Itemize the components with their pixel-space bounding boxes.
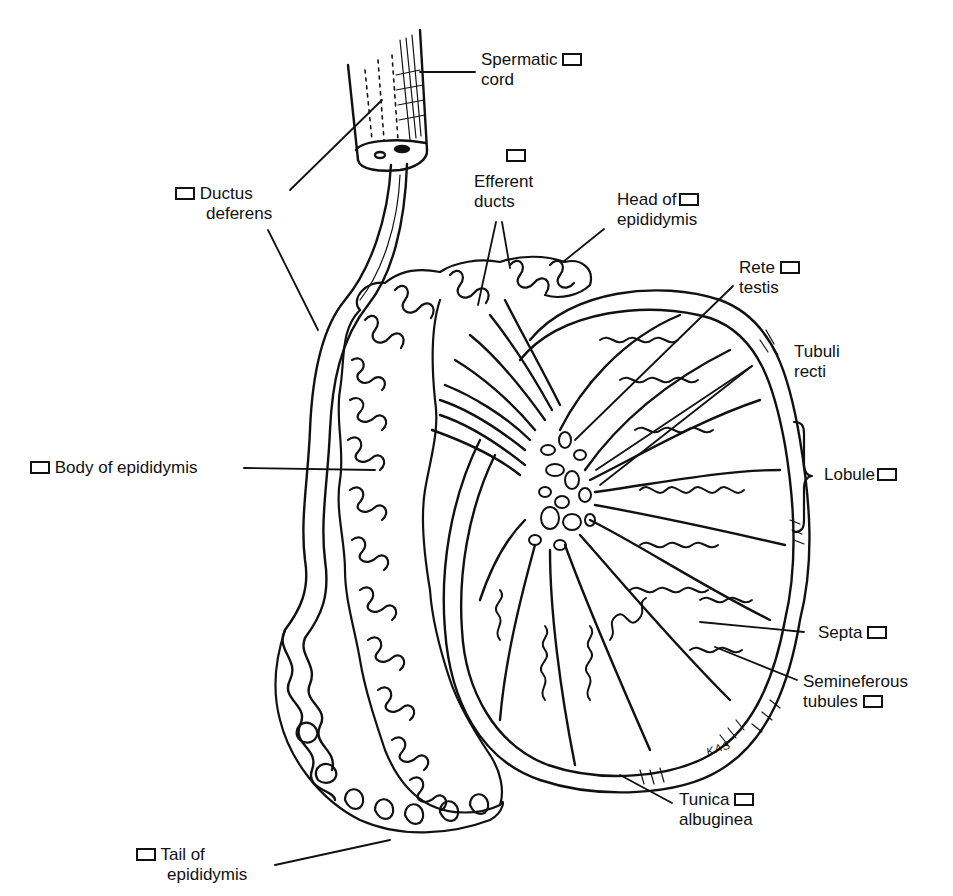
label-text: Spermatic bbox=[481, 50, 558, 69]
label-text: Septa bbox=[818, 623, 862, 642]
label-seminiferous-tubules: Semineferous tubules bbox=[803, 672, 908, 712]
leader-tail-of-epididymis bbox=[275, 840, 390, 865]
label-text: deferens bbox=[175, 204, 272, 224]
label-efferent-ducts: Efferent ducts bbox=[474, 146, 533, 212]
answer-checkbox[interactable] bbox=[30, 461, 50, 474]
answer-checkbox[interactable] bbox=[734, 793, 754, 806]
answer-checkbox[interactable] bbox=[863, 695, 883, 708]
label-spermatic-cord: Spermatic cord bbox=[481, 50, 582, 90]
label-text: Head of bbox=[617, 190, 677, 209]
answer-checkbox[interactable] bbox=[780, 261, 800, 274]
answer-checkbox[interactable] bbox=[175, 187, 195, 200]
label-text: cord bbox=[481, 70, 582, 90]
label-text: Ductus bbox=[200, 184, 253, 203]
label-tunica-albuginea: Tunica albuginea bbox=[679, 790, 754, 830]
label-body-of-epididymis: Body of epididymis bbox=[30, 458, 197, 478]
answer-checkbox[interactable] bbox=[562, 53, 582, 66]
label-text: recti bbox=[794, 362, 840, 382]
label-text: Efferent bbox=[474, 172, 533, 192]
efferent-ducts-drawing bbox=[432, 300, 595, 550]
label-text: Tunica bbox=[679, 790, 729, 809]
leader-ductus-deferens-lower bbox=[268, 230, 318, 330]
answer-checkbox[interactable] bbox=[136, 848, 156, 861]
leader-body-of-epididymis bbox=[244, 468, 375, 470]
spermatic-cord-drawing bbox=[348, 30, 427, 171]
label-text: Semineferous bbox=[803, 672, 908, 692]
answer-checkbox[interactable] bbox=[877, 468, 897, 481]
label-tubuli-recti: Tubuli recti bbox=[794, 342, 840, 382]
label-text: albuginea bbox=[679, 810, 754, 830]
leader-seminiferous-tubules bbox=[715, 647, 797, 680]
label-text: epididymis bbox=[136, 865, 247, 885]
ductus-deferens-drawing bbox=[283, 164, 407, 800]
anatomy-illustration bbox=[0, 0, 953, 896]
label-text: epididymis bbox=[617, 210, 699, 230]
label-text: Rete bbox=[739, 258, 775, 277]
label-text: Lobule bbox=[824, 465, 875, 484]
label-lobule: Lobule bbox=[824, 465, 897, 485]
label-text: tubules bbox=[803, 692, 858, 711]
testis-drawing bbox=[444, 290, 810, 792]
leader-head-of-epididymis bbox=[563, 229, 604, 262]
label-text: ducts bbox=[474, 192, 533, 212]
answer-checkbox[interactable] bbox=[867, 626, 887, 639]
label-rete-testis: Rete testis bbox=[739, 258, 800, 298]
rete-testis-network bbox=[529, 432, 595, 550]
label-head-of-epididymis: Head of epididymis bbox=[617, 190, 699, 230]
label-text: Tail of bbox=[160, 845, 204, 864]
answer-checkbox[interactable] bbox=[506, 149, 526, 162]
leader-ductus-deferens-upper bbox=[290, 100, 382, 190]
answer-checkbox[interactable] bbox=[679, 193, 699, 206]
label-tail-of-epididymis: Tail of epididymis bbox=[136, 845, 247, 885]
label-septa: Septa bbox=[818, 623, 887, 643]
label-text: testis bbox=[739, 278, 800, 298]
label-text: Body of epididymis bbox=[55, 458, 198, 477]
leader-septa bbox=[700, 622, 804, 632]
label-ductus-deferens: Ductus deferens bbox=[175, 184, 272, 224]
label-text: Tubuli bbox=[794, 342, 840, 362]
